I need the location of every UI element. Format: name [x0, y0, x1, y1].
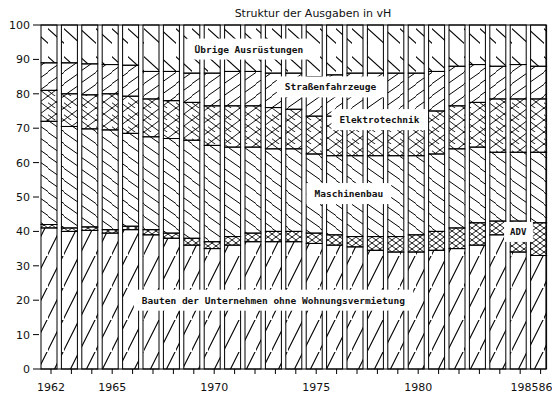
bar-1983 [469, 25, 485, 369]
bar-1985 [510, 25, 526, 369]
bar-segment [449, 249, 465, 369]
bar-segment [204, 73, 220, 106]
bar-segment [429, 25, 445, 71]
bar-segment [225, 71, 241, 105]
bar-1984 [490, 25, 506, 369]
bar-1963 [61, 25, 77, 369]
bar-segment [306, 233, 322, 243]
bar-segment [41, 121, 57, 224]
bar-segment [449, 25, 465, 66]
bar-segment [143, 230, 159, 235]
bar-segment [102, 230, 118, 233]
bar-segment [449, 66, 465, 106]
bar-segment [184, 102, 200, 140]
bar-segment [286, 231, 302, 241]
bar-segment [469, 25, 485, 65]
bar-segment [123, 65, 139, 96]
series-label: ADV [510, 227, 527, 237]
bar-segment [490, 66, 506, 99]
bar-segment [61, 25, 77, 63]
bar-segment [225, 237, 241, 246]
bar-1980 [408, 25, 424, 369]
bar-1970 [204, 25, 220, 369]
bar-segment [531, 99, 547, 152]
bar-1968 [163, 25, 179, 369]
bar-1965 [102, 25, 118, 369]
bar-segment [61, 126, 77, 227]
bar-segment [61, 63, 77, 94]
y-tick-label: 80 [16, 88, 30, 101]
bar-1962 [41, 25, 57, 369]
y-tick-label: 0 [23, 363, 30, 376]
bar-segment [531, 152, 547, 223]
series-label: Bauten der Unternehmen ohne Wohnungsverm… [142, 295, 405, 306]
bar-segment [490, 25, 506, 66]
bar-segment [347, 237, 363, 247]
bar-segment [143, 71, 159, 99]
bar-segment [163, 71, 179, 100]
series-label: Übrige Ausrüstungen [195, 44, 304, 55]
bar-segment [245, 233, 261, 242]
bar-1966 [123, 25, 139, 369]
bar-segment [429, 231, 445, 250]
bar-segment [184, 238, 200, 245]
bar-segment [163, 233, 179, 238]
bar-segment [123, 25, 139, 65]
bar-segment [61, 231, 77, 369]
bar-segment [123, 226, 139, 229]
bar-segment [327, 25, 343, 75]
bar-segment [123, 133, 139, 226]
bar-1971 [225, 25, 241, 369]
bar-segment [306, 116, 322, 154]
bar-segment [184, 73, 200, 102]
bar-segment [163, 101, 179, 139]
bar-segment [245, 106, 261, 147]
y-tick-label: 70 [16, 122, 30, 135]
bar-segment [510, 152, 526, 221]
x-tick-label: 1962 [37, 381, 65, 394]
bar-segment [531, 223, 547, 256]
bar-segment [429, 111, 445, 154]
bar-segment [82, 230, 98, 369]
bar-segment [204, 242, 220, 249]
chart-title: Struktur der Ausgaben in vH [235, 7, 392, 20]
bar-1969 [184, 25, 200, 369]
bar-segment [408, 73, 424, 113]
bar-segment [41, 63, 57, 91]
bar-segment [102, 94, 118, 130]
y-tick-label: 90 [16, 53, 30, 66]
bar-segment [531, 66, 547, 99]
bar-segment [367, 25, 383, 73]
y-tick-label: 60 [16, 157, 30, 170]
series-label: Elektrotechnik [339, 114, 419, 125]
bar-segment [286, 109, 302, 149]
bar-segment [531, 25, 547, 66]
bar-segment [490, 221, 506, 235]
bar-segment [510, 25, 526, 65]
bar-segment [82, 227, 98, 230]
bar-1967 [143, 25, 159, 369]
bar-segment [102, 233, 118, 369]
bar-segment [163, 25, 179, 71]
bar-segment [469, 102, 485, 147]
bar-segment [429, 250, 445, 369]
bar-segment [82, 129, 98, 227]
bar-segment [388, 25, 404, 73]
bar-segment [490, 152, 506, 221]
y-tick-label: 10 [16, 329, 30, 342]
bar-segment [143, 25, 159, 71]
bar-segment [510, 252, 526, 369]
bar-1972 [245, 25, 261, 369]
bar-segment [225, 106, 241, 147]
bar-segment [82, 25, 98, 64]
y-tick-label: 30 [16, 260, 30, 273]
bar-1964 [82, 25, 98, 369]
bar-1982 [449, 25, 465, 369]
bar-segment [143, 99, 159, 137]
bar-segment [204, 106, 220, 146]
bar-segment [429, 154, 445, 231]
bar-segment [163, 139, 179, 234]
bar-segment [245, 71, 261, 105]
bar-segment [490, 235, 506, 369]
bar-segment [61, 228, 77, 231]
